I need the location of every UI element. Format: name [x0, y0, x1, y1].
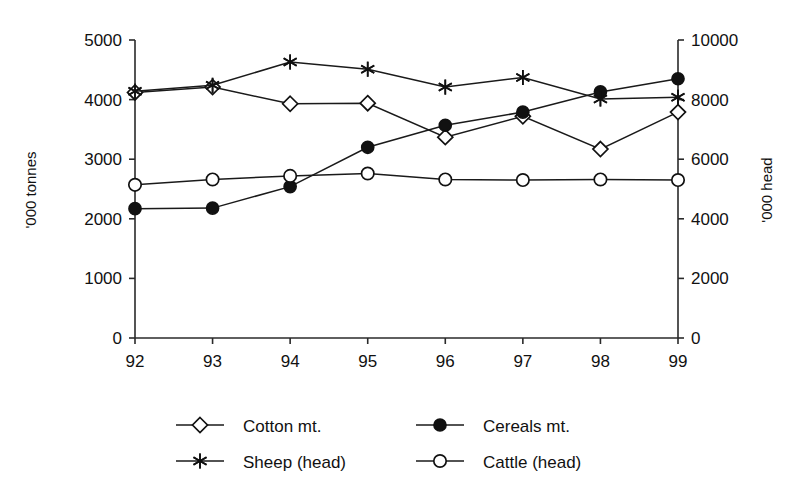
y-axis-left-tick-label: 4000	[84, 91, 122, 110]
y-axis-right-tick-label: 8000	[691, 91, 729, 110]
data-point	[439, 119, 451, 131]
data-point	[284, 170, 296, 182]
x-axis-tick-label: 98	[591, 352, 610, 371]
data-point	[206, 173, 218, 185]
legend-item[interactable]: Cattle (head)	[416, 453, 581, 472]
y-axis-right-tick-label: 4000	[691, 210, 729, 229]
y-axis-left-tick-label: 5000	[84, 31, 122, 50]
data-point	[671, 105, 686, 120]
y-axis-left-tick-label: 3000	[84, 150, 122, 169]
chart-legend: Cotton mt.Cereals mt.Sheep (head)Cattle …	[176, 417, 581, 472]
data-point	[672, 73, 684, 85]
y-axis-right-tick-label: 2000	[691, 269, 729, 288]
data-point	[672, 174, 684, 186]
data-point	[362, 141, 374, 153]
legend-marker-filled-circle	[434, 419, 446, 431]
data-point	[517, 174, 529, 186]
y-axis-right-title: '000 head	[758, 157, 775, 222]
x-axis-tick-label: 95	[358, 352, 377, 371]
y-axis-right-tick-label: 10000	[691, 31, 738, 50]
data-point	[360, 96, 375, 111]
series-cattle-head	[129, 167, 684, 191]
legend-marker-open-circle	[434, 455, 446, 467]
x-axis-tick-label: 97	[513, 352, 532, 371]
data-point	[594, 173, 606, 185]
legend-item[interactable]: Cotton mt.	[176, 417, 321, 436]
legend-label: Cotton mt.	[243, 417, 321, 436]
series-sheep-head	[129, 55, 685, 107]
y-axis-left-title: '000 tonnes	[22, 151, 39, 228]
legend-label: Cattle (head)	[483, 453, 581, 472]
data-point	[129, 179, 141, 191]
y-axis-left-tick-label: 2000	[84, 210, 122, 229]
y-axis-left-tick-label: 1000	[84, 269, 122, 288]
legend-item[interactable]: Sheep (head)	[176, 453, 346, 472]
data-point	[129, 203, 141, 215]
data-point	[517, 106, 529, 118]
x-axis-tick-label: 92	[126, 352, 145, 371]
data-point	[439, 173, 451, 185]
legend-label: Cereals mt.	[483, 417, 570, 436]
x-axis-tick-label: 96	[436, 352, 455, 371]
legend-item[interactable]: Cereals mt.	[416, 417, 570, 436]
y-axis-left-tick-label: 0	[113, 329, 122, 348]
x-axis-tick-label: 94	[281, 352, 300, 371]
data-series	[128, 55, 686, 215]
legend-marker-open-diamond	[193, 418, 208, 433]
legend-label: Sheep (head)	[243, 453, 346, 472]
x-axis-tick-label: 99	[669, 352, 688, 371]
y-axis-right-tick-label: 6000	[691, 150, 729, 169]
data-point	[593, 142, 608, 157]
y-axis-right-tick-label: 0	[691, 329, 700, 348]
data-point	[207, 202, 219, 214]
data-point	[283, 96, 298, 111]
livestock-crop-production-line-chart: '000 tonnes '000 head 010002000300040005…	[0, 0, 805, 495]
chart-container: '000 tonnes '000 head 010002000300040005…	[0, 0, 805, 495]
data-point	[362, 167, 374, 179]
x-axis-tick-label: 93	[203, 352, 222, 371]
axes: 0100020003000400050000200040006000800010…	[84, 31, 738, 371]
